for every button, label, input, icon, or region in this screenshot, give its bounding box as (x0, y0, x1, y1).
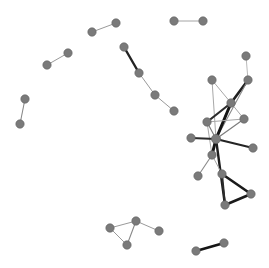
graph-node[interactable] (194, 172, 202, 180)
graph-node[interactable] (106, 224, 114, 232)
graph-node[interactable] (208, 76, 216, 84)
graph-node[interactable] (199, 17, 207, 25)
graph-node[interactable] (227, 99, 235, 107)
graph-node[interactable] (155, 227, 163, 235)
graph-edge (222, 174, 251, 194)
graph-node[interactable] (120, 43, 128, 51)
graph-node[interactable] (170, 107, 178, 115)
graph-node[interactable] (16, 120, 24, 128)
graph-node[interactable] (247, 190, 255, 198)
graph-node[interactable] (240, 115, 248, 123)
graph-node[interactable] (88, 28, 96, 36)
graph-node[interactable] (218, 170, 226, 178)
graph-node[interactable] (43, 61, 51, 69)
graph-node[interactable] (211, 134, 220, 143)
graph-node[interactable] (244, 76, 252, 84)
graph-node[interactable] (64, 49, 72, 57)
graph-node[interactable] (192, 247, 200, 255)
graph-node[interactable] (123, 241, 131, 249)
graph-node[interactable] (242, 52, 250, 60)
graph-edge (212, 80, 216, 139)
graph-node[interactable] (203, 118, 211, 126)
graph-node[interactable] (135, 69, 143, 77)
network-graph-canvas (0, 0, 269, 268)
graph-edge (124, 47, 139, 73)
graph-node[interactable] (132, 217, 140, 225)
graph-node[interactable] (187, 134, 195, 142)
graph-node[interactable] (220, 239, 228, 247)
graph-node[interactable] (170, 17, 178, 25)
graph-node[interactable] (151, 91, 159, 99)
graph-node[interactable] (221, 201, 229, 209)
network-graph-svg (0, 0, 269, 268)
graph-node[interactable] (112, 19, 120, 27)
graph-node[interactable] (208, 151, 216, 159)
graph-node[interactable] (249, 144, 257, 152)
graph-node[interactable] (21, 95, 29, 103)
graph-edge (216, 139, 253, 148)
